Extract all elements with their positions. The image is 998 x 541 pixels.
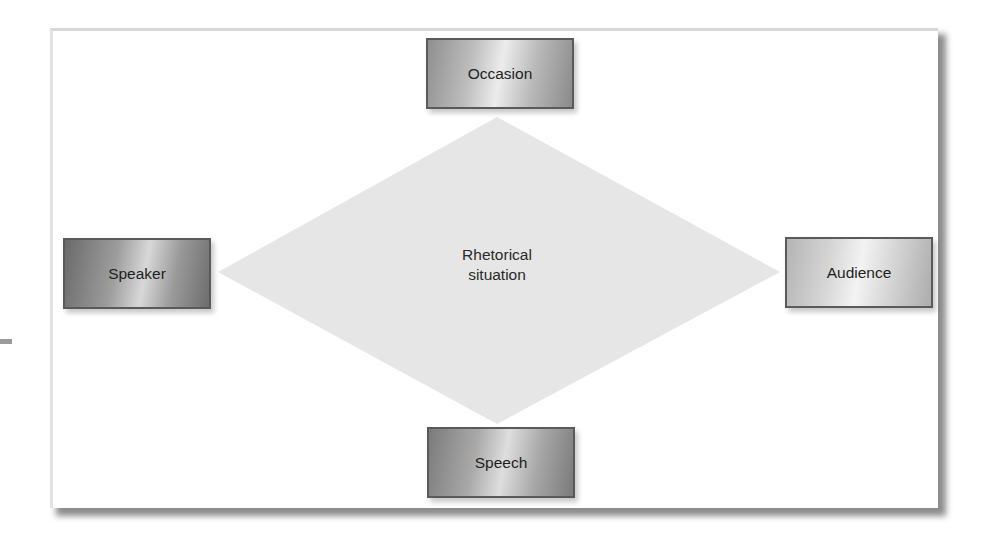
node-audience: Audience xyxy=(785,237,933,308)
center-label: Rhetorical situation xyxy=(397,245,597,285)
node-occasion: Occasion xyxy=(426,38,574,109)
node-speaker-label: Speaker xyxy=(108,265,166,283)
node-occasion-label: Occasion xyxy=(468,65,533,83)
center-label-line1: Rhetorical xyxy=(397,245,597,265)
node-audience-label: Audience xyxy=(827,264,892,282)
node-speaker: Speaker xyxy=(63,238,211,309)
edge-dash-mark xyxy=(0,339,12,344)
node-speech-label: Speech xyxy=(475,454,528,472)
node-speech: Speech xyxy=(427,427,575,498)
center-label-line2: situation xyxy=(397,265,597,285)
